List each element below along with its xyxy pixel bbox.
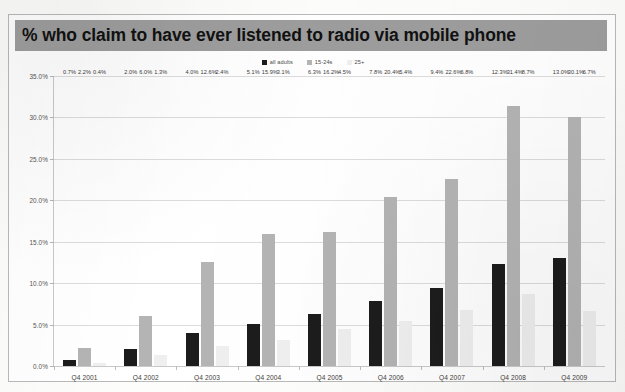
bar-value-label: 1.3%: [154, 69, 167, 75]
bar-column[interactable]: 2.4%: [216, 76, 229, 366]
chart-legend: all adults15-24s25+: [9, 59, 617, 65]
bar[interactable]: 20.4%: [384, 197, 397, 366]
bar-group: 13.0%30.1%6.7%Q4 2009: [544, 76, 605, 366]
bar-column[interactable]: 5.4%: [399, 76, 412, 366]
bar[interactable]: 0.7%: [63, 360, 76, 366]
bar-column[interactable]: 6.7%: [583, 76, 596, 366]
bar-value-label: 31.4%: [507, 69, 523, 75]
bar[interactable]: 1.3%: [154, 355, 167, 366]
bar[interactable]: 6.7%: [583, 311, 596, 367]
bar-column[interactable]: 7.8%: [369, 76, 382, 366]
bar-group: 7.8%20.4%5.4%Q4 2006: [360, 76, 421, 366]
bar[interactable]: 6.3%: [308, 314, 321, 366]
bar-column[interactable]: 31.4%: [507, 76, 520, 366]
x-axis-tick-mark: [238, 366, 239, 370]
x-axis-tick-label: Q4 2002: [115, 374, 176, 381]
legend-item-25-[interactable]: 25+: [347, 59, 365, 65]
bar[interactable]: 13.0%: [553, 258, 566, 366]
bar-column[interactable]: 2.0%: [124, 76, 137, 366]
bar[interactable]: 6.8%: [460, 310, 473, 366]
x-axis-tick-mark: [360, 366, 361, 370]
bar-column[interactable]: 8.7%: [522, 76, 535, 366]
bar[interactable]: 5.4%: [399, 321, 412, 366]
bar-value-label: 6.8%: [460, 69, 473, 75]
bar-value-label: 3.1%: [277, 69, 290, 75]
bar-value-label: 22.6%: [445, 69, 461, 75]
bar-column[interactable]: 6.8%: [460, 76, 473, 366]
x-axis-tick-mark: [483, 366, 484, 370]
bar-column[interactable]: 13.0%: [553, 76, 566, 366]
bar[interactable]: 2.0%: [124, 349, 137, 366]
bar-value-label: 6.7%: [583, 69, 596, 75]
bar[interactable]: 9.4%: [430, 288, 443, 366]
bar-value-label: 20.4%: [384, 69, 400, 75]
bar-group-bars: 6.3%16.2%4.5%: [299, 76, 360, 366]
bar[interactable]: 8.7%: [522, 294, 535, 366]
bar[interactable]: 6.0%: [139, 316, 152, 366]
legend-label: 25+: [355, 59, 365, 65]
bar-group: 2.0%6.0%1.3%Q4 2002: [115, 76, 176, 366]
bar-column[interactable]: 2.2%: [78, 76, 91, 366]
bar-column[interactable]: 5.1%: [247, 76, 260, 366]
bar[interactable]: 4.0%: [186, 333, 199, 366]
bar[interactable]: 7.8%: [369, 301, 382, 366]
y-axis-tick-label: 20.0%: [29, 197, 48, 204]
bar-value-label: 12.6%: [201, 69, 217, 75]
legend-item-all-adults[interactable]: all adults: [262, 59, 293, 65]
x-axis-tick-mark: [421, 366, 422, 370]
bar-column[interactable]: 3.1%: [277, 76, 290, 366]
bar-group: 9.4%22.6%6.8%Q4 2007: [421, 76, 482, 366]
bar[interactable]: 3.1%: [277, 340, 290, 366]
legend-label: 15-24s: [315, 59, 333, 65]
bar-value-label: 4.0%: [186, 69, 199, 75]
x-axis-tick-label: Q4 2001: [54, 374, 115, 381]
bar-column[interactable]: 16.2%: [323, 76, 336, 366]
bar-column[interactable]: 22.6%: [445, 76, 458, 366]
bar-column[interactable]: 0.4%: [93, 76, 106, 366]
bar[interactable]: 15.9%: [262, 234, 275, 366]
bar-group: 12.3%31.4%8.7%Q4 2008: [483, 76, 544, 366]
x-axis-tick-label: Q4 2004: [238, 374, 299, 381]
bar-group: 0.7%2.2%0.4%Q4 2001: [54, 76, 115, 366]
chart-frame: % who claim to have ever listened to rad…: [8, 14, 616, 382]
x-axis-tick-label: Q4 2009: [544, 374, 605, 381]
bar-group-bars: 4.0%12.6%2.4%: [176, 76, 237, 366]
legend-swatch-icon: [307, 60, 312, 65]
bar-column[interactable]: 0.7%: [63, 76, 76, 366]
bar[interactable]: 4.5%: [338, 329, 351, 366]
bar-column[interactable]: 4.5%: [338, 76, 351, 366]
scanned-page: % who claim to have ever listened to rad…: [0, 0, 625, 392]
bar-column[interactable]: 15.9%: [262, 76, 275, 366]
bar-group: 6.3%16.2%4.5%Q4 2005: [299, 76, 360, 366]
bar-value-label: 2.4%: [216, 69, 229, 75]
bar-column[interactable]: 4.0%: [186, 76, 199, 366]
legend-label: all adults: [270, 59, 293, 65]
bar[interactable]: 16.2%: [323, 232, 336, 366]
bar-value-label: 8.7%: [522, 69, 535, 75]
bar[interactable]: 22.6%: [445, 179, 458, 366]
bar[interactable]: 31.4%: [507, 106, 520, 366]
bar-group-bars: 0.7%2.2%0.4%: [54, 76, 115, 366]
bar[interactable]: 2.2%: [78, 348, 91, 366]
bar-column[interactable]: 9.4%: [430, 76, 443, 366]
bar[interactable]: 30.1%: [568, 117, 581, 366]
bar-column[interactable]: 20.4%: [384, 76, 397, 366]
x-axis-tick-label: Q4 2008: [483, 374, 544, 381]
bar-column[interactable]: 6.0%: [139, 76, 152, 366]
bar[interactable]: 2.4%: [216, 346, 229, 366]
bar-column[interactable]: 1.3%: [154, 76, 167, 366]
bar-column[interactable]: 12.6%: [201, 76, 214, 366]
bar-column[interactable]: 6.3%: [308, 76, 321, 366]
y-axis-tick-label: 15.0%: [29, 238, 48, 245]
bar-value-label: 5.1%: [247, 69, 260, 75]
bar-group-bars: 5.1%15.9%3.1%: [238, 76, 299, 366]
bar[interactable]: 0.4%: [93, 363, 106, 366]
bar-column[interactable]: 30.1%: [568, 76, 581, 366]
bar-column[interactable]: 12.3%: [492, 76, 505, 366]
bar[interactable]: 12.3%: [492, 264, 505, 366]
legend-swatch-icon: [347, 60, 352, 65]
y-axis-tick-label: 25.0%: [29, 155, 48, 162]
legend-item-15-24s[interactable]: 15-24s: [307, 59, 333, 65]
bar[interactable]: 5.1%: [247, 324, 260, 366]
bar[interactable]: 12.6%: [201, 262, 214, 366]
